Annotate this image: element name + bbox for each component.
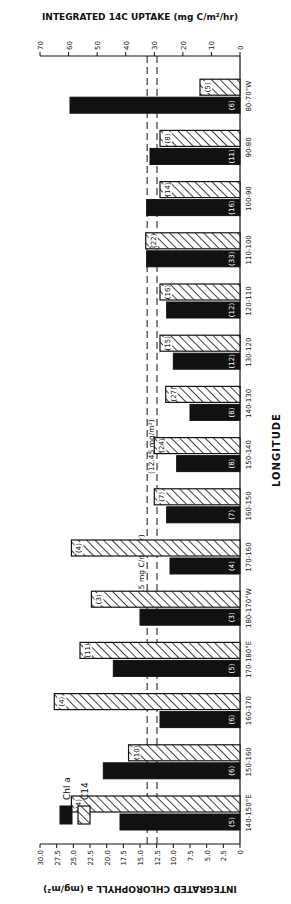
sample-count-c14: (10) bbox=[133, 745, 141, 760]
bar-chl-a bbox=[140, 609, 240, 625]
bar-chl-a bbox=[147, 251, 240, 267]
sample-count-chl: (6) bbox=[228, 100, 236, 110]
bar-c14 bbox=[154, 438, 240, 454]
category-label: 170-180°E bbox=[245, 641, 253, 678]
left-tick-label: 30.0 bbox=[37, 850, 45, 866]
bar-group: (7)(7) bbox=[154, 489, 240, 523]
right-tick-label: 20 bbox=[180, 41, 188, 50]
bar-group: (33)(22) bbox=[146, 233, 240, 267]
bar-group: (3)(3) bbox=[91, 591, 240, 625]
sample-count-chl: (8) bbox=[228, 407, 236, 417]
category-label: 160-150 bbox=[245, 491, 253, 520]
left-tick-label: 20.0 bbox=[104, 850, 112, 866]
sample-count-c14: (15) bbox=[164, 336, 172, 351]
bar-chl-a bbox=[147, 200, 240, 216]
category-label: 80-70°W bbox=[245, 81, 253, 112]
sample-count-c14: (16) bbox=[164, 285, 172, 300]
category-label: 130-120 bbox=[245, 338, 253, 367]
x-axis-title: LONGITUDE bbox=[271, 413, 282, 487]
category-label: 170-160 bbox=[245, 542, 253, 571]
sample-count-c14: (7) bbox=[158, 492, 166, 502]
bar-group: (12)(15) bbox=[160, 335, 240, 369]
left-tick-label: 2.5 bbox=[220, 850, 228, 861]
sample-count-chl: (7) bbox=[228, 510, 236, 520]
bar-c14 bbox=[71, 540, 240, 556]
right-tick-label: 50 bbox=[94, 41, 102, 50]
bar-chl-a bbox=[120, 814, 240, 830]
bar-group: (8)(24) bbox=[154, 438, 240, 472]
sample-count-chl: (12) bbox=[228, 354, 236, 369]
category-label: 150-160 bbox=[245, 747, 253, 776]
category-label: 110-100 bbox=[245, 235, 253, 264]
sample-count-chl: (5) bbox=[228, 817, 236, 827]
category-label: 180-170°W bbox=[245, 588, 253, 628]
category-label: 140-150°E bbox=[245, 794, 253, 831]
bar-c14 bbox=[80, 642, 240, 658]
left-tick-label: 27.5 bbox=[54, 850, 62, 866]
rotated-chart-container: 02.55.07.510.012.515.017.520.022.525.027… bbox=[0, 0, 291, 904]
bar-c14 bbox=[91, 591, 240, 607]
sample-count-chl: (11) bbox=[228, 149, 236, 164]
sample-count-chl: (16) bbox=[228, 200, 236, 215]
bar-c14 bbox=[129, 745, 240, 761]
left-tick-label: 12.5 bbox=[154, 850, 162, 866]
legend-label-c14: C14 bbox=[80, 782, 90, 800]
left-tick-label: 17.5 bbox=[120, 850, 128, 866]
sample-count-c14: (24) bbox=[158, 438, 166, 453]
category-label: 90-80 bbox=[245, 137, 253, 157]
sample-count-c14: (27) bbox=[170, 387, 178, 402]
left-axis-ticks: 02.55.07.510.012.515.017.520.022.525.027… bbox=[37, 844, 245, 866]
bar-group: (5)(4) bbox=[71, 796, 240, 830]
bar-group: (4)(4) bbox=[71, 540, 240, 574]
left-tick-label: 25.0 bbox=[70, 850, 78, 866]
bar-group: (11)(8) bbox=[150, 130, 240, 164]
legend-swatch-chl bbox=[60, 806, 72, 824]
bar-c14 bbox=[154, 489, 240, 505]
sample-count-c14: (14) bbox=[164, 182, 172, 197]
sample-count-c14: (3) bbox=[95, 594, 103, 604]
category-label: 120-110 bbox=[245, 286, 253, 315]
left-tick-label: 15.0 bbox=[137, 850, 145, 866]
bar-group: (6)(10) bbox=[103, 745, 240, 779]
sample-count-chl: (5) bbox=[228, 663, 236, 673]
right-axis-title: INTEGRATED 14C UPTAKE (mg C/m²/hr) bbox=[42, 12, 238, 22]
sample-count-chl: (12) bbox=[228, 303, 236, 318]
bar-c14 bbox=[71, 796, 240, 812]
left-tick-label: 10.0 bbox=[170, 850, 178, 866]
left-tick-label: 22.5 bbox=[87, 850, 95, 866]
sample-count-c14: (11) bbox=[84, 643, 92, 658]
left-axis-title: INTEGRATED CHLOROPHYLL a (mg/m²) bbox=[43, 884, 237, 894]
left-tick-label: 7.5 bbox=[187, 850, 195, 861]
sample-count-c14: (8) bbox=[164, 133, 172, 143]
category-label: 150-140 bbox=[245, 440, 253, 469]
right-axis-ticks: 010203040506070 bbox=[37, 41, 245, 56]
left-tick-label: 0 bbox=[237, 850, 245, 854]
left-tick-label: 5.0 bbox=[204, 850, 212, 861]
sample-count-chl: (3) bbox=[228, 612, 236, 622]
sample-count-chl: (8) bbox=[228, 458, 236, 468]
bar-group: (12)(16) bbox=[160, 284, 240, 318]
bar-group: (16)(14) bbox=[147, 182, 240, 216]
sample-count-c14: (5) bbox=[204, 82, 212, 92]
right-tick-label: 30 bbox=[151, 41, 159, 50]
sample-count-chl: (6) bbox=[228, 714, 236, 724]
sample-count-c14: (22) bbox=[150, 233, 158, 248]
bar-c14 bbox=[54, 694, 240, 710]
category-labels: 140-150°E150-160160-170170-180°E180-170°… bbox=[245, 81, 253, 832]
legend-swatch-c14 bbox=[78, 806, 90, 824]
sample-count-c14: (4) bbox=[58, 696, 66, 706]
bar-chl-a bbox=[103, 763, 240, 779]
sample-count-chl: (6) bbox=[228, 766, 236, 776]
right-tick-label: 40 bbox=[123, 41, 131, 50]
bar-c14 bbox=[146, 233, 240, 249]
right-tick-label: 10 bbox=[208, 41, 216, 50]
category-label: 100-90 bbox=[245, 186, 253, 211]
legend-label-chl: Chl a bbox=[62, 777, 72, 800]
sample-count-chl: (4) bbox=[228, 561, 236, 571]
bar-group: (6)(5) bbox=[70, 79, 240, 113]
bar-chl-a bbox=[113, 660, 240, 676]
right-tick-label: 0 bbox=[237, 46, 245, 50]
category-label: 160-170 bbox=[245, 696, 253, 725]
right-tick-label: 70 bbox=[37, 41, 45, 50]
bar-group: (8)(27) bbox=[166, 386, 240, 420]
